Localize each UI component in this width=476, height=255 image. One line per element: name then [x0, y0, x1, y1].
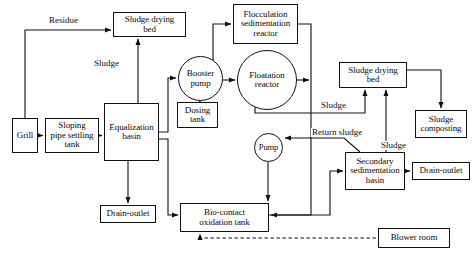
edge-drying-bed-to-composting	[407, 70, 441, 108]
edge-booster-pump-to-flocculation	[213, 24, 231, 62]
node-sludge-drying-bed-right-label: Sludge dryingbed	[347, 66, 398, 85]
node-flocculation-sedimentation-reactor-label: Flocculationsedimentationreactor	[240, 10, 291, 38]
node-dosing-tank[interactable]: Dosingtank	[177, 102, 218, 128]
node-secondary-sedimentation-basin[interactable]: Secondarysedimentationbasin	[345, 152, 405, 190]
edge-equalization-to-booster-pump	[159, 78, 176, 132]
node-sloping-pipe-settling-tank[interactable]: Slopingpipe settlingtank	[45, 118, 99, 153]
node-pump[interactable]: Pump	[254, 133, 283, 162]
edge-label-return-sludge: Return sludge	[311, 128, 363, 137]
node-sludge-composting-label: Sludgecomposting	[420, 115, 463, 134]
node-dosing-tank-label: Dosingtank	[184, 106, 211, 125]
node-sloping-pipe-settling-tank-label: Slopingpipe settlingtank	[50, 121, 95, 149]
node-bio-contact-oxidation-tank-label: Bio-contactoxidation tank	[198, 208, 250, 227]
node-sludge-drying-bed-left-label: Sludge dryingbed	[124, 15, 175, 34]
edge-label-sludge-left: Sludge	[93, 59, 120, 68]
node-secondary-sedimentation-basin-label: Secondarysedimentationbasin	[349, 157, 400, 185]
edge-residue-to-drying-bed	[25, 30, 111, 118]
node-blower-room[interactable]: Blower room	[378, 228, 450, 248]
edge-secondary-to-pump-return-sludge	[285, 138, 360, 152]
node-floatation-reactor[interactable]: Floatationreactor	[237, 50, 297, 110]
node-sludge-drying-bed-right[interactable]: Sludge dryingbed	[339, 62, 407, 88]
node-drain-outlet-right-label: Drain-outlet	[419, 166, 464, 175]
node-drain-outlet-left[interactable]: Drain-outlet	[100, 205, 156, 223]
node-sludge-drying-bed-left[interactable]: Sludge dryingbed	[113, 12, 186, 37]
process-flow-diagram: Grill Slopingpipe settlingtank Equalizat…	[0, 0, 476, 255]
node-equalization-basin-label: Equalizationbasin	[108, 123, 154, 142]
node-flocculation-sedimentation-reactor[interactable]: Flocculationsedimentationreactor	[233, 4, 298, 44]
node-booster-pump[interactable]: Boosterpump	[178, 56, 223, 101]
node-grill-label: Grill	[16, 131, 35, 140]
node-equalization-basin[interactable]: Equalizationbasin	[104, 103, 159, 161]
node-drain-outlet-left-label: Drain-outlet	[106, 209, 151, 218]
edge-bio-contact-to-secondary	[269, 171, 343, 215]
edge-label-residue: Residue	[48, 16, 79, 25]
node-bio-contact-oxidation-tank[interactable]: Bio-contactoxidation tank	[180, 203, 269, 232]
node-floatation-reactor-label: Floatationreactor	[248, 71, 286, 90]
edge-label-sludge-mid: Sludge	[320, 101, 347, 110]
node-pump-label: Pump	[258, 143, 279, 152]
edge-blower-room-to-bio-contact	[200, 234, 376, 238]
node-drain-outlet-right[interactable]: Drain-outlet	[412, 162, 470, 180]
node-blower-room-label: Blower room	[390, 233, 439, 242]
node-grill[interactable]: Grill	[12, 118, 38, 153]
edge-label-sludge-right: Sludge	[380, 141, 407, 150]
node-booster-pump-label: Boosterpump	[186, 69, 215, 88]
node-sludge-composting[interactable]: Sludgecomposting	[415, 110, 467, 138]
edge-equalization-to-bio-contact	[159, 139, 178, 215]
